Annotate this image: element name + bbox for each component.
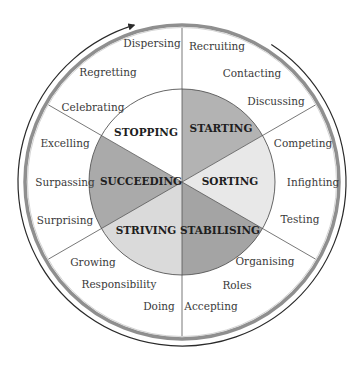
- phase-label-succeeding: SUCCEEDING: [100, 175, 182, 187]
- activity-label-testing: Testing: [281, 213, 320, 225]
- phase-label-stopping: STOPPING: [114, 126, 178, 138]
- activity-label-excelling: Excelling: [40, 137, 90, 149]
- activity-label-surprising: Surprising: [37, 214, 94, 226]
- activity-label-contacting: Contacting: [223, 67, 282, 79]
- activity-label-responsibility: Responsibility: [81, 278, 156, 290]
- activity-label-infighting: Infighting: [287, 176, 340, 188]
- team-lifecycle-wheel: STARTINGSORTINGSTABILISINGSTRIVINGSUCCEE…: [0, 0, 362, 365]
- phase-label-starting: STARTING: [190, 122, 253, 134]
- activity-label-recruiting: Recruiting: [189, 40, 245, 52]
- activity-label-accepting: Accepting: [183, 300, 238, 312]
- activity-label-regretting: Regretting: [79, 66, 137, 78]
- activity-label-organising: Organising: [236, 255, 295, 267]
- activity-label-celebrating: Celebrating: [62, 101, 125, 113]
- activity-label-surpassing: Surpassing: [35, 176, 95, 188]
- activity-label-discussing: Discussing: [247, 95, 305, 107]
- activity-label-competing: Competing: [274, 137, 333, 149]
- activity-label-growing: Growing: [70, 256, 116, 268]
- activity-label-roles: Roles: [222, 279, 251, 291]
- phase-label-sorting: SORTING: [202, 175, 259, 187]
- activity-label-doing: Doing: [143, 300, 175, 312]
- phase-label-stabilising: STABILISING: [180, 224, 260, 236]
- activity-label-dispersing: Dispersing: [123, 37, 181, 49]
- phase-label-striving: STRIVING: [116, 224, 177, 236]
